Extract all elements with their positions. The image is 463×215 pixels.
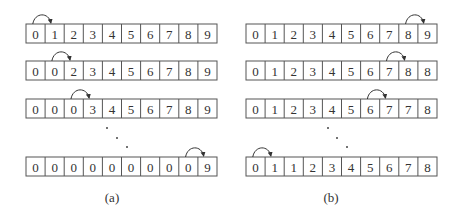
- array-cell-value: 0: [51, 160, 58, 175]
- array-cell-value: 0: [252, 160, 259, 175]
- array-row: 0023456789: [26, 52, 217, 80]
- array-row: 0003456789: [26, 90, 217, 118]
- array-cell-value: 0: [51, 102, 58, 117]
- array-cell-value: 0: [51, 64, 58, 79]
- array-cell-value: 0: [252, 102, 259, 117]
- array-cell-value: 2: [291, 64, 298, 79]
- array-cell-value: 6: [386, 160, 393, 175]
- ellipsis-dot: [336, 137, 338, 139]
- array-cell-value: 0: [147, 160, 154, 175]
- array-cell-value: 6: [367, 27, 374, 42]
- array-cell-value: 0: [109, 160, 116, 175]
- array-cell-value: 4: [348, 160, 355, 175]
- array-cell-value: 8: [405, 27, 412, 42]
- array-cell-value: 3: [90, 27, 97, 42]
- array-cell-value: 5: [348, 102, 355, 117]
- array-cell-value: 7: [166, 102, 173, 117]
- array-cell-value: 5: [348, 64, 355, 79]
- shift-arrow-icon: [253, 148, 271, 157]
- diagram-canvas: 0123456789002345678900034567890000000009…: [0, 0, 463, 215]
- array-row: 0000000009: [26, 148, 217, 176]
- array-cell-value: 1: [291, 160, 298, 175]
- array-cell-value: 0: [32, 27, 39, 42]
- array-cell-value: 8: [424, 64, 431, 79]
- array-cell-value: 5: [348, 27, 355, 42]
- array-cell-value: 4: [329, 64, 336, 79]
- array-cell-value: 3: [310, 64, 317, 79]
- array-cell-value: 8: [185, 102, 192, 117]
- array-cell-value: 8: [185, 64, 192, 79]
- array-cell-value: 9: [204, 64, 211, 79]
- panel-b: 0123456789012345678801234567780112345678…: [246, 15, 437, 205]
- array-cell-value: 5: [128, 64, 135, 79]
- array-cell-value: 7: [386, 27, 393, 42]
- array-row: 0123456789: [246, 15, 437, 43]
- array-cell-value: 0: [252, 64, 259, 79]
- shift-arrow-icon: [33, 15, 51, 24]
- shift-arrow-icon: [71, 90, 89, 99]
- array-cell-value: 6: [367, 64, 374, 79]
- array-cell-value: 1: [271, 102, 278, 117]
- array-cell-value: 1: [271, 160, 278, 175]
- array-cell-value: 7: [405, 102, 412, 117]
- array-shift-diagram: 0123456789002345678900034567890000000009…: [0, 0, 463, 215]
- array-cell-value: 5: [128, 102, 135, 117]
- array-cell-value: 9: [424, 27, 431, 42]
- array-cell-value: 0: [128, 160, 135, 175]
- shift-arrow-icon: [186, 148, 204, 157]
- array-cell-value: 3: [329, 160, 336, 175]
- shift-arrow-icon: [386, 52, 404, 61]
- array-cell-value: 2: [291, 102, 298, 117]
- array-cell-value: 8: [424, 102, 431, 117]
- array-cell-value: 0: [166, 160, 173, 175]
- array-cell-value: 2: [71, 27, 78, 42]
- array-row: 0123456788: [246, 52, 437, 80]
- array-cell-value: 6: [367, 102, 374, 117]
- shift-arrow-icon: [367, 90, 385, 99]
- array-cell-value: 8: [424, 160, 431, 175]
- array-cell-value: 6: [147, 27, 154, 42]
- array-cell-value: 0: [252, 27, 259, 42]
- panel-caption: (b): [323, 190, 338, 205]
- array-cell-value: 4: [109, 102, 116, 117]
- shift-arrow-icon: [52, 52, 70, 61]
- array-cell-value: 3: [90, 64, 97, 79]
- array-cell-value: 0: [185, 160, 192, 175]
- array-row: 0112345678: [246, 148, 437, 176]
- array-cell-value: 1: [271, 64, 278, 79]
- array-cell-value: 5: [128, 27, 135, 42]
- ellipsis-dot: [116, 137, 118, 139]
- array-cell-value: 8: [405, 64, 412, 79]
- array-cell-value: 4: [109, 64, 116, 79]
- array-cell-value: 3: [310, 27, 317, 42]
- array-cell-value: 0: [71, 160, 78, 175]
- array-cell-value: 7: [405, 160, 412, 175]
- array-cell-value: 1: [51, 27, 58, 42]
- panel-a: 0123456789002345678900034567890000000009…: [26, 15, 217, 205]
- ellipsis-dot: [126, 146, 128, 148]
- array-cell-value: 0: [32, 160, 39, 175]
- array-cell-value: 7: [386, 102, 393, 117]
- array-cell-value: 4: [329, 27, 336, 42]
- ellipsis-dot: [106, 127, 108, 129]
- shift-arrow-icon: [406, 15, 424, 24]
- panel-caption: (a): [105, 190, 119, 205]
- ellipsis-dot: [327, 127, 329, 129]
- array-cell-value: 7: [166, 64, 173, 79]
- array-cell-value: 0: [32, 102, 39, 117]
- array-cell-value: 2: [310, 160, 317, 175]
- array-cell-value: 6: [147, 102, 154, 117]
- array-cell-value: 5: [367, 160, 374, 175]
- array-cell-value: 9: [204, 102, 211, 117]
- array-cell-value: 0: [71, 102, 78, 117]
- array-cell-value: 8: [185, 27, 192, 42]
- array-cell-value: 9: [204, 160, 211, 175]
- array-cell-value: 0: [90, 160, 97, 175]
- array-cell-value: 0: [32, 64, 39, 79]
- array-cell-value: 4: [329, 102, 336, 117]
- array-cell-value: 3: [90, 102, 97, 117]
- ellipsis-dot: [346, 146, 348, 148]
- array-row: 0123456778: [246, 90, 437, 118]
- array-cell-value: 4: [109, 27, 116, 42]
- array-cell-value: 3: [310, 102, 317, 117]
